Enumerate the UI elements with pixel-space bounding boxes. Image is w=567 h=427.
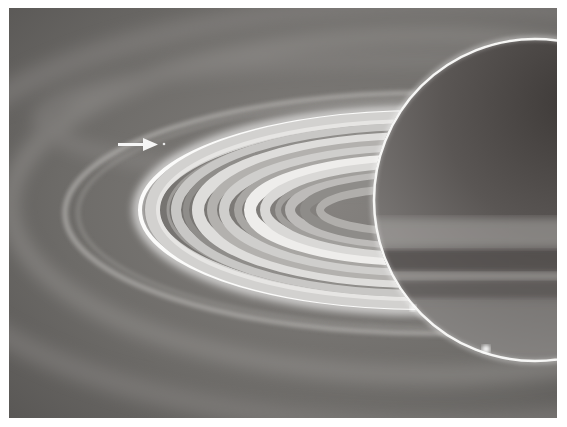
moon-dot	[163, 143, 166, 146]
saturn-photo	[9, 8, 557, 418]
saturn-scene	[9, 8, 557, 418]
